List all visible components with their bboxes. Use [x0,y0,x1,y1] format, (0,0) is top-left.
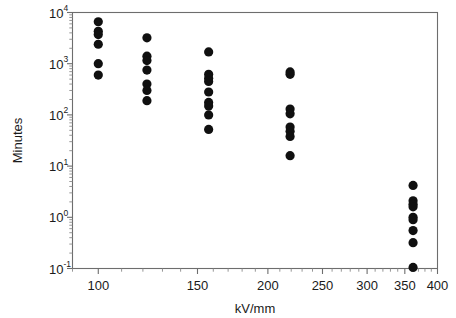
data-point [142,65,151,74]
data-points [94,17,418,272]
data-point [94,70,103,79]
y-tick-label: 10 [49,108,63,123]
x-axis-ticks [73,269,438,275]
plot-canvas: 10-1100101102103104 10015020025030035040… [0,0,456,318]
x-tick-label: 350 [394,278,416,293]
data-point [142,56,151,65]
y-tick-label: 10 [49,262,63,277]
data-point [94,17,103,26]
y-axis-tick-labels: 10-1100101102103104 [49,3,71,277]
x-tick-label: 400 [427,278,449,293]
y-tick-label: 10 [49,6,63,21]
x-axis-tick-labels: 100150200250300350400 [87,278,448,293]
scatter-plot-figure: 10-1100101102103104 10015020025030035040… [0,0,456,318]
data-point [142,96,151,105]
plot-frame [73,13,438,269]
y-tick-label: 10 [49,159,63,174]
data-point [408,226,417,235]
y-tick-label-exponent: 0 [64,208,69,218]
x-axis-title: kV/mm [235,301,275,316]
data-point [285,151,294,160]
x-tick-label: 250 [312,278,334,293]
data-point [204,87,213,96]
y-axis-ticks [67,13,73,269]
y-tick-label-exponent: -1 [64,259,72,269]
y-tick-label-exponent: 1 [64,157,69,167]
data-point [285,70,294,79]
y-tick-label-exponent: 4 [64,3,69,13]
data-point [94,59,103,68]
y-tick-label-exponent: 3 [64,54,69,64]
y-axis-title: Minutes [10,117,25,163]
data-point [408,181,417,190]
y-tick-label: 10 [49,57,63,72]
data-point [142,86,151,95]
data-point [204,47,213,56]
data-point [408,263,417,272]
x-tick-label: 100 [87,278,109,293]
data-point [408,238,417,247]
data-point [408,215,417,224]
data-point [204,110,213,119]
data-point [204,101,213,110]
data-point [408,202,417,211]
data-point [204,125,213,134]
data-point [94,40,103,49]
data-point [142,33,151,42]
data-point [285,109,294,118]
x-tick-label: 200 [257,278,279,293]
y-tick-label-exponent: 2 [64,105,69,115]
data-point [94,30,103,39]
x-tick-label: 150 [187,278,209,293]
data-point [204,77,213,86]
x-tick-label: 300 [356,278,378,293]
data-point [285,132,294,141]
y-tick-label: 10 [49,210,63,225]
